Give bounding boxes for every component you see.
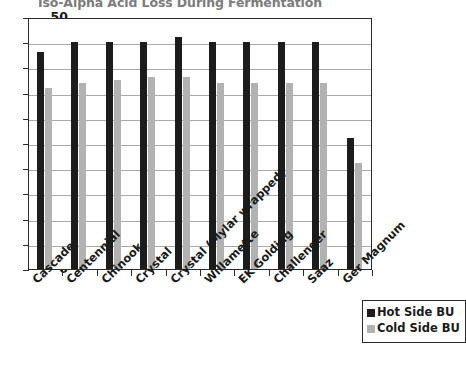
bar (183, 77, 190, 269)
bar (45, 88, 52, 269)
x-axis-tick-mark (338, 270, 339, 276)
x-axis-tick-mark (303, 270, 304, 276)
bar (148, 77, 155, 269)
y-axis-tick-mark (23, 270, 29, 271)
bar-group (175, 19, 201, 269)
bar-group (71, 19, 97, 269)
x-axis-tick-mark (200, 270, 201, 276)
bar-group (37, 19, 63, 269)
legend-item: Cold Side BU (367, 321, 460, 337)
bar-group (140, 19, 166, 269)
x-axis-tick-mark (166, 270, 167, 276)
bar (79, 83, 86, 269)
legend-item: Hot Side BU (367, 305, 460, 321)
x-axis-tick-mark (97, 270, 98, 276)
bar (355, 163, 362, 269)
x-axis-tick-mark (372, 270, 373, 276)
bar (37, 52, 44, 269)
bar (140, 42, 147, 269)
legend-swatch-icon (367, 309, 375, 317)
x-axis-tick-mark (269, 270, 270, 276)
bar (347, 138, 354, 269)
x-axis-tick-mark (131, 270, 132, 276)
legend-swatch-icon (367, 325, 375, 333)
legend-label: Cold Side BU (377, 323, 460, 335)
chart-legend: Hot Side BUCold Side BU (362, 300, 466, 343)
bar (175, 37, 182, 269)
bar-group (347, 19, 373, 269)
bar (71, 42, 78, 269)
legend-label: Hot Side BU (377, 307, 454, 319)
